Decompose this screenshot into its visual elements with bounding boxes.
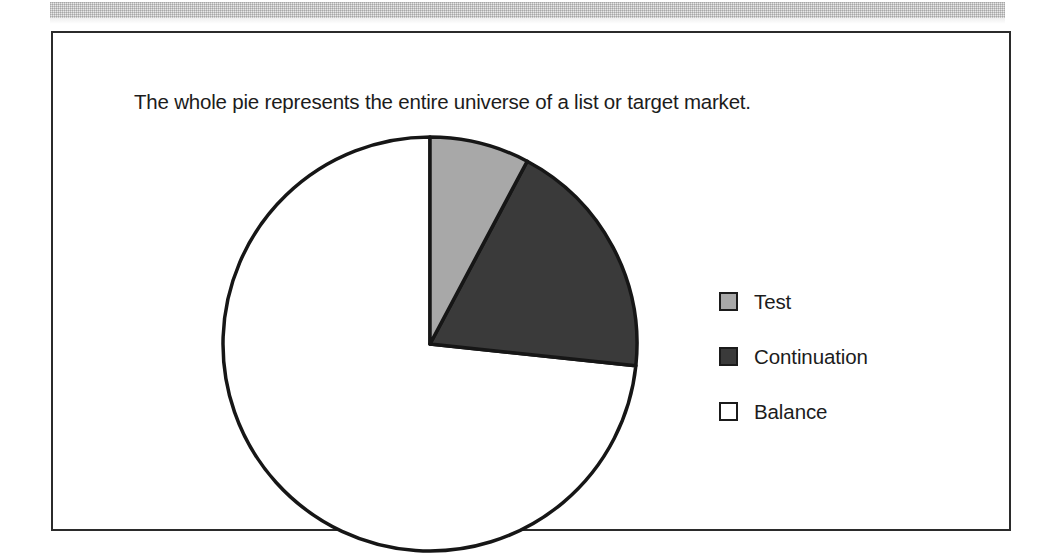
legend-swatch-icon-continuation <box>719 347 738 366</box>
pie-chart-svg <box>213 123 653 557</box>
figure-caption: The whole pie represents the entire univ… <box>134 90 751 114</box>
chart-legend: Test Continuation Balance <box>719 274 969 439</box>
legend-item-test[interactable]: Test <box>719 274 969 329</box>
legend-label-continuation: Continuation <box>754 345 868 369</box>
legend-label-test: Test <box>754 290 791 314</box>
legend-item-continuation[interactable]: Continuation <box>719 329 969 384</box>
legend-item-balance[interactable]: Balance <box>719 384 969 439</box>
figure-frame: The whole pie represents the entire univ… <box>51 31 1011 531</box>
scan-artifact-fade <box>50 18 1005 24</box>
legend-swatch-icon-test <box>719 292 738 311</box>
pie-chart <box>213 123 653 557</box>
legend-label-balance: Balance <box>754 400 827 424</box>
legend-swatch-icon-balance <box>719 402 738 421</box>
